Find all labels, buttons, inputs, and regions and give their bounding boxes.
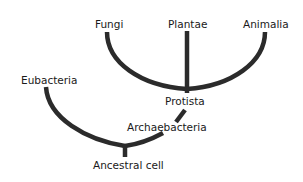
label-animalia: Animalia [243,18,289,30]
label-archaebacteria: Archaebacteria [127,121,207,133]
label-ancestral-cell: Ancestral cell [93,159,164,171]
phylogenetic-tree-diagram: Fungi Plantae Animalia Eubacteria Protis… [0,0,303,182]
label-fungi: Fungi [95,18,123,30]
label-protista: Protista [165,95,205,107]
branch-eubacteria [46,87,125,146]
branch-fungi [107,32,187,89]
branch-archaebacteria [125,133,163,146]
branch-animalia [187,32,265,89]
label-eubacteria: Eubacteria [21,74,77,86]
label-plantae: Plantae [168,18,207,30]
